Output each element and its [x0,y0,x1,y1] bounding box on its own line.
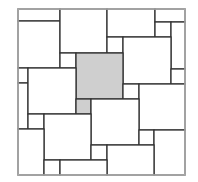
tile [28,68,76,114]
tile [155,9,185,22]
tile [171,22,185,69]
tiling-diagram [0,0,198,182]
tile [91,145,107,160]
tile [18,21,60,68]
tile [44,160,60,175]
tile [44,114,91,160]
tile [171,69,185,84]
tile [18,83,28,129]
tile [18,68,28,83]
tile [123,84,139,99]
tile [28,114,44,129]
tiles-group [18,9,185,175]
tile [139,84,185,130]
tile [60,160,107,175]
tile [60,9,107,53]
tile [18,129,44,175]
tile [60,53,76,68]
highlighted-tile [76,53,123,99]
tile [123,37,171,84]
tile [107,9,155,37]
tile [107,37,123,53]
tile [18,9,60,21]
tile [91,99,139,145]
tile [139,130,154,145]
tile [107,145,154,175]
tile [154,130,185,175]
highlighted-tile [76,99,91,114]
tile [155,22,171,37]
